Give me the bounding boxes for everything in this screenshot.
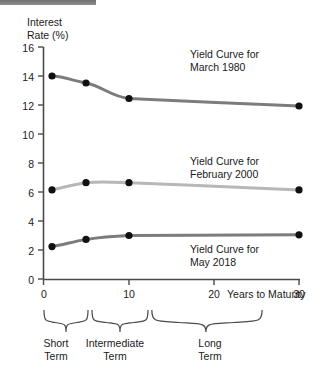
term-braces <box>44 310 262 332</box>
yield-curve-chart-figure: Interest Rate (%) 16 14 12 10 8 6 4 2 0 … <box>0 0 326 378</box>
brace-long-term <box>152 310 262 332</box>
series-line-march-1980 <box>52 76 299 106</box>
chart-plot-area <box>0 0 326 378</box>
brace-short-term <box>44 310 88 332</box>
series-points-february-2000 <box>48 179 302 193</box>
y-axis-ticks <box>38 47 44 279</box>
x-axis-ticks <box>44 280 300 286</box>
brace-intermediate-term <box>92 310 148 332</box>
